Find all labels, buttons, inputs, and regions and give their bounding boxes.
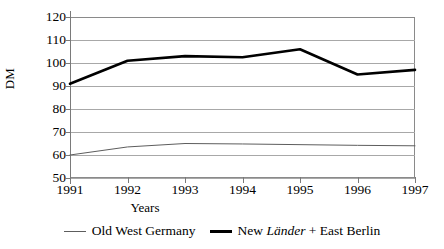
x-tick-label: 1992 [114,183,141,197]
y-tick-label: 100 [24,56,66,70]
x-tick-label: 1997 [402,183,429,197]
x-tick-label: 1991 [57,183,84,197]
y-axis-title: DM [2,68,24,89]
plot-area [70,17,415,178]
x-tick-label: 1993 [172,183,199,197]
thin-line-swatch-icon [64,231,86,232]
y-tick-label: 60 [24,148,66,162]
x-tick-label: 1996 [344,183,371,197]
y-tick-label: 80 [24,102,66,116]
x-tick-label: 1994 [229,183,256,197]
legend-item-new-laender-east-berlin: New Länder + East Berlin [210,223,381,239]
y-tick-label: 90 [24,79,66,93]
x-axis-tick-labels: 1991199219931994199519961997 [0,183,444,201]
x-tick-label: 1995 [287,183,314,197]
legend-label-part-prefix: New [238,223,267,238]
legend-label-new-laender-east-berlin: New Länder + East Berlin [238,223,381,239]
legend-item-old-west-germany: Old West Germany [64,223,196,239]
y-tick-label: 110 [24,33,66,47]
legend-label-part-suffix: + East Berlin [305,223,380,238]
legend-label-part-italic: Länder [266,223,305,238]
series-line [70,144,415,156]
series-line [70,49,415,83]
y-tick-label: 120 [24,10,66,24]
chart-legend: Old West Germany New Länder + East Berli… [0,223,444,239]
x-axis-title: Years [0,200,290,216]
legend-label-old-west-germany: Old West Germany [92,223,196,239]
series-lines [70,17,415,178]
line-chart: DM 1201101009080706050 19911992199319941… [0,0,444,249]
bold-line-swatch-icon [210,230,232,233]
y-tick-label: 70 [24,125,66,139]
